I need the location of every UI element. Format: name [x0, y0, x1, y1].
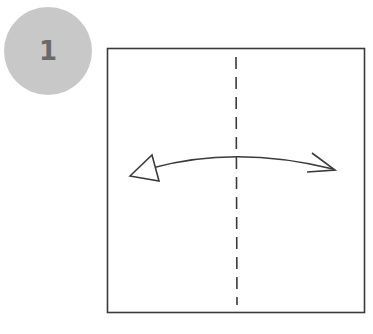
- fold-diagram: [0, 0, 373, 334]
